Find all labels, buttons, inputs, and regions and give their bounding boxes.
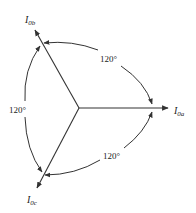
phasor-a-label: I0a — [173, 105, 185, 118]
arc-ab-upper — [44, 42, 98, 50]
angle-label-bc: 120° — [9, 105, 27, 115]
phasor-b-label: I0b — [24, 14, 36, 27]
arc-bc-upper — [25, 46, 40, 101]
angle-label-ca: 120° — [103, 151, 121, 161]
arc-ca-upper — [124, 112, 152, 148]
angle-label-ab: 120° — [100, 54, 118, 64]
arc-ca-lower — [45, 160, 100, 175]
arc-ab-lower — [121, 66, 152, 104]
arc-bc-lower — [25, 117, 42, 172]
phasor-c-label: I0c — [26, 194, 38, 207]
phasor-c-line — [37, 108, 79, 188]
phasor-b-line — [35, 30, 79, 108]
phasor-diagram: I0a I0b I0c 120° 120° 120° — [0, 0, 196, 213]
